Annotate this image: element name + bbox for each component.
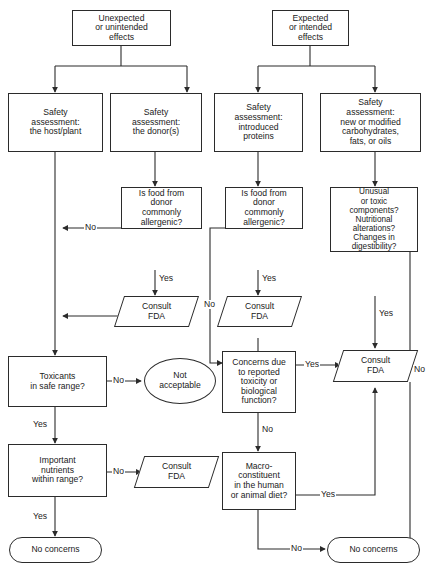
node-consult-fda-2: ConsultFDA	[222, 296, 297, 327]
node-allergenic-right: Is food fromdonorcommonlyallergenic?	[225, 187, 303, 229]
node-safety-assessment-carbohydrates: Safetyassessment:new or modifiedcarbohyd…	[320, 93, 421, 152]
node-important-nutrients-within-range: Importantnutrientswithin range?	[8, 444, 107, 497]
edge-label-nutrients-no: No	[112, 467, 125, 476]
node-concerns-due-to-reported-toxicity-label: Concerns dueto reportedtoxicity orbiolog…	[232, 358, 286, 406]
edge-label-nutrients-yes: Yes	[32, 512, 48, 521]
node-consult-fda-3-label: ConsultFDA	[338, 356, 413, 375]
edge-label-concerns-yes: Yes	[304, 360, 320, 369]
node-toxicants-in-safe-range: Toxicantsin safe range?	[8, 356, 107, 407]
node-safety-assessment-donors: Safetyassessment:the donor(s)	[110, 93, 202, 152]
node-unusual-or-toxic-label: Unusualor toxiccomponents?Nutritionalalt…	[349, 187, 398, 251]
node-no-concerns-right: No concerns	[327, 537, 420, 563]
node-not-acceptable: Notacceptable	[144, 358, 216, 404]
node-allergenic-left-label: Is food fromdonorcommonlyallergenic?	[139, 189, 184, 228]
node-not-acceptable-label: Notacceptable	[159, 371, 201, 390]
node-consult-fda-1-label: ConsultFDA	[119, 302, 194, 321]
node-safety-assessment-introduced-proteins-label: Safetyassessment:introducedproteins	[234, 103, 282, 142]
edge-label-unusual-no: No	[413, 365, 426, 374]
node-toxicants-in-safe-range-label: Toxicantsin safe range?	[30, 372, 84, 391]
node-consult-fda-3: ConsultFDA	[338, 350, 413, 382]
node-macro-constituent: Macro-constituentin the humanor animal d…	[222, 452, 296, 510]
node-concerns-due-to-reported-toxicity: Concerns dueto reportedtoxicity orbiolog…	[222, 351, 296, 413]
edge-label-macro-no: No	[290, 544, 303, 553]
node-no-concerns-left: No concerns	[9, 537, 102, 563]
edge-label-allergenic-left-no: No	[84, 223, 97, 232]
node-safety-assessment-host-plant-label: Safetyassessment:the host/plant	[30, 108, 82, 137]
edge-label-toxicants-yes: Yes	[32, 420, 48, 429]
node-no-concerns-left-label: No concerns	[31, 545, 79, 555]
node-unexpected-effects-label: Unexpectedor unintendedeffects	[95, 14, 148, 43]
node-safety-assessment-carbohydrates-label: Safetyassessment:new or modifiedcarbohyd…	[340, 98, 401, 146]
node-expected-effects-label: Expectedor intendedeffects	[289, 14, 332, 43]
edge-label-unusual-yes: Yes	[378, 309, 394, 318]
edge-label-concerns-no: No	[261, 425, 274, 434]
node-allergenic-right-label: Is food fromdonorcommonlyallergenic?	[241, 189, 286, 228]
edge-label-macro-yes: Yes	[320, 490, 336, 499]
node-safety-assessment-donors-label: Safetyassessment:the donor(s)	[132, 108, 180, 137]
node-unexpected-effects: Unexpectedor unintendedeffects	[72, 10, 171, 46]
node-consult-fda-2-label: ConsultFDA	[222, 302, 297, 321]
node-consult-fda-4: ConsultFDA	[139, 456, 214, 488]
edge-label-allergenic-right-no: No	[203, 300, 216, 309]
flowchart-canvas: Unexpectedor unintendedeffects Expectedo…	[0, 0, 431, 576]
node-allergenic-left: Is food fromdonorcommonlyallergenic?	[121, 187, 202, 229]
node-safety-assessment-host-plant: Safetyassessment:the host/plant	[8, 93, 103, 152]
node-consult-fda-1: ConsultFDA	[119, 296, 194, 327]
node-important-nutrients-within-range-label: Importantnutrientswithin range?	[32, 456, 83, 485]
node-no-concerns-right-label: No concerns	[349, 545, 397, 555]
edge-label-allergenic-right-yes: Yes	[261, 274, 277, 283]
edge-label-toxicants-no: No	[112, 376, 125, 385]
node-consult-fda-4-label: ConsultFDA	[139, 462, 214, 481]
node-safety-assessment-introduced-proteins: Safetyassessment:introducedproteins	[214, 93, 303, 152]
node-unusual-or-toxic: Unusualor toxiccomponents?Nutritionalalt…	[330, 187, 418, 252]
node-expected-effects: Expectedor intendedeffects	[272, 10, 349, 46]
node-macro-constituent-label: Macro-constituentin the humanor animal d…	[231, 462, 287, 501]
edge-label-allergenic-left-yes: Yes	[158, 274, 174, 283]
